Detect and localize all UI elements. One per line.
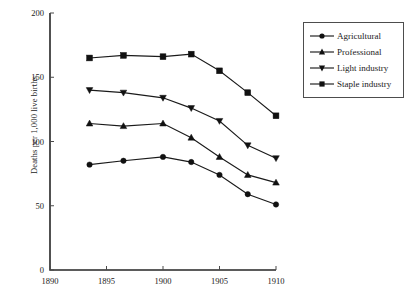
y-tick-label: 0 [40, 265, 44, 275]
data-point-marker [189, 159, 194, 164]
legend-item-professional[interactable]: Professional [309, 44, 397, 60]
data-point-marker [121, 53, 127, 59]
series-polyline [90, 54, 276, 116]
data-point-marker [87, 55, 93, 61]
legend-item-staple-industry[interactable]: Staple industry [309, 76, 397, 92]
data-point-marker [217, 172, 222, 177]
data-point-marker [273, 202, 278, 207]
legend-key-square-icon [309, 77, 335, 91]
data-point-marker [160, 120, 167, 126]
legend-item-agricultural[interactable]: Agricultural [309, 28, 397, 44]
data-point-marker [121, 158, 126, 163]
series-polyline [90, 157, 276, 205]
axis-lines [50, 13, 276, 270]
legend-label: Professional [335, 47, 382, 57]
y-tick-label: 200 [31, 8, 44, 18]
legend-key-triangle-down-icon [309, 61, 335, 75]
series-professional [86, 120, 279, 185]
data-point-marker [160, 54, 166, 60]
data-point-marker [217, 68, 223, 74]
data-point-marker [244, 172, 251, 178]
data-point-marker [188, 134, 195, 140]
legend-key-circle-icon [309, 29, 335, 43]
legend-label: Light industry [335, 63, 388, 73]
series-agricultural [87, 154, 279, 207]
data-point-marker [245, 90, 251, 96]
data-point-marker [86, 120, 93, 126]
legend-label: Staple industry [335, 79, 391, 89]
series-staple-industry [87, 51, 279, 118]
data-point-marker [245, 191, 250, 196]
data-point-marker [160, 154, 165, 159]
data-point-marker [273, 156, 280, 162]
series-light-industry [86, 88, 279, 162]
data-point-marker [87, 162, 92, 167]
data-point-marker [273, 113, 279, 119]
data-point-marker [188, 51, 194, 57]
y-axis-title: Deaths per 1,000 live births [29, 45, 39, 205]
line-chart-svg: 05010015020018901895190019051910 [0, 0, 300, 301]
data-series-group [86, 51, 279, 207]
x-tick-label: 1895 [98, 276, 115, 286]
tick-marks-group [50, 13, 276, 270]
x-tick-label: 1905 [211, 276, 228, 286]
data-point-marker [216, 154, 223, 160]
legend-key-triangle-up-icon [309, 45, 335, 59]
x-tick-label: 1890 [42, 276, 59, 286]
legend-label: Agricultural [335, 31, 381, 41]
x-tick-label: 1900 [155, 276, 172, 286]
chart-figure: 05010015020018901895190019051910 Deaths … [0, 0, 410, 301]
plot-area: 05010015020018901895190019051910 [0, 0, 300, 301]
x-tick-label: 1910 [268, 276, 285, 286]
axes-group [50, 13, 276, 270]
legend-item-light-industry[interactable]: Light industry [309, 60, 397, 76]
chart-legend: Agricultural Professional Light industry… [303, 22, 404, 98]
